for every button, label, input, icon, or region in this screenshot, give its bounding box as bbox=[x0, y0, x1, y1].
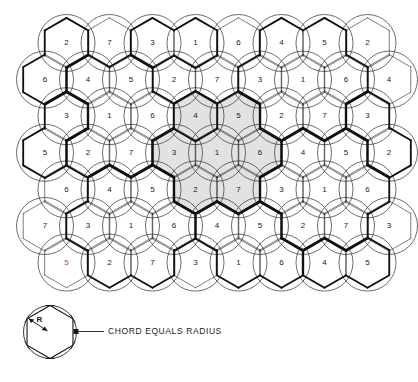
cell-label: 2 bbox=[172, 75, 177, 84]
cell-label: 2 bbox=[279, 111, 284, 120]
cell-label: 3 bbox=[365, 111, 370, 120]
cell-label: 4 bbox=[301, 148, 306, 157]
cell-label: 5 bbox=[150, 185, 155, 194]
cell-label: 4 bbox=[387, 75, 392, 84]
cell-label: 7 bbox=[322, 111, 327, 120]
cell-label: 2 bbox=[365, 38, 370, 47]
cell-label: 7 bbox=[150, 258, 155, 267]
cell-label: 1 bbox=[193, 38, 198, 47]
cell-label: 1 bbox=[215, 148, 220, 157]
cellular-reuse-figure: 2731645264527316431645273527316452645273… bbox=[0, 0, 418, 382]
cell-label: 5 bbox=[64, 258, 69, 267]
cell-label: 7 bbox=[43, 221, 48, 230]
cell-label: 6 bbox=[172, 221, 177, 230]
legend-caption: CHORD EQUALS RADIUS bbox=[108, 326, 222, 336]
cell-label: 6 bbox=[236, 38, 241, 47]
cell-label: 7 bbox=[236, 185, 241, 194]
cell-label: 1 bbox=[236, 258, 241, 267]
cell-label: 7 bbox=[215, 75, 220, 84]
cell-label: 5 bbox=[322, 38, 327, 47]
cell-label: 5 bbox=[344, 148, 349, 157]
cell-label: 2 bbox=[387, 148, 392, 157]
cell-label: 5 bbox=[43, 148, 48, 157]
cell-label: 6 bbox=[344, 75, 349, 84]
radius-label: R bbox=[37, 315, 43, 324]
cell-label: 3 bbox=[279, 185, 284, 194]
cell-label: 5 bbox=[129, 75, 134, 84]
cell-label: 1 bbox=[129, 221, 134, 230]
cell-label: 4 bbox=[279, 38, 284, 47]
cell-label: 6 bbox=[258, 148, 263, 157]
cell-label: 3 bbox=[64, 111, 69, 120]
cell-label: 6 bbox=[365, 185, 370, 194]
cell-label: 4 bbox=[86, 75, 91, 84]
cell-label: 5 bbox=[258, 221, 263, 230]
cell-label: 4 bbox=[107, 185, 112, 194]
cell-label: 2 bbox=[301, 221, 306, 230]
cell-label: 1 bbox=[107, 111, 112, 120]
cell-label: 5 bbox=[365, 258, 370, 267]
cell-label: 2 bbox=[64, 38, 69, 47]
cell-label: 6 bbox=[279, 258, 284, 267]
cell-label: 3 bbox=[258, 75, 263, 84]
cell-label: 1 bbox=[322, 185, 327, 194]
cell-label: 7 bbox=[129, 148, 134, 157]
cell-label: 1 bbox=[301, 75, 306, 84]
cell-label: 2 bbox=[107, 258, 112, 267]
cell-label: 4 bbox=[215, 221, 220, 230]
cell-label: 5 bbox=[236, 111, 241, 120]
cell-label: 3 bbox=[172, 148, 177, 157]
cell-label: 7 bbox=[107, 38, 112, 47]
cell-label: 3 bbox=[193, 258, 198, 267]
cell-label: 6 bbox=[43, 75, 48, 84]
cell-label: 4 bbox=[193, 111, 198, 120]
cell-label: 2 bbox=[193, 185, 198, 194]
cell-label: 7 bbox=[344, 221, 349, 230]
cell-label: 3 bbox=[150, 38, 155, 47]
cell-label: 3 bbox=[387, 221, 392, 230]
cell-label: 2 bbox=[86, 148, 91, 157]
cell-label: 4 bbox=[322, 258, 327, 267]
cell-label: 6 bbox=[150, 111, 155, 120]
cell-label: 6 bbox=[64, 185, 69, 194]
cell-label: 3 bbox=[86, 221, 91, 230]
